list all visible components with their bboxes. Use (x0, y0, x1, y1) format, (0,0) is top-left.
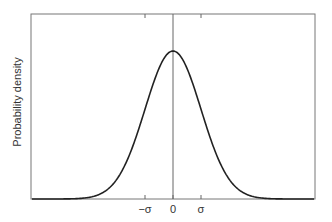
tick-minus-sigma: −σ (138, 203, 151, 215)
tick-sigma: σ (198, 203, 205, 215)
tick-zero: 0 (170, 203, 176, 215)
chart-canvas (0, 0, 332, 222)
y-axis-label: Probability density (11, 57, 23, 147)
